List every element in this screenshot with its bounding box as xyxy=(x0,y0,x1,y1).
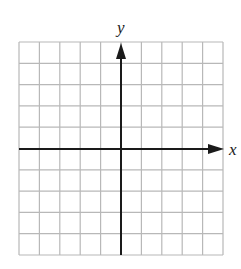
y-axis-arrow-icon xyxy=(116,43,126,59)
x-axis-label: x xyxy=(228,140,237,159)
x-axis-arrow-icon xyxy=(208,144,224,154)
y-axis-label: y xyxy=(115,18,125,37)
coordinate-plane: x y xyxy=(0,0,241,269)
